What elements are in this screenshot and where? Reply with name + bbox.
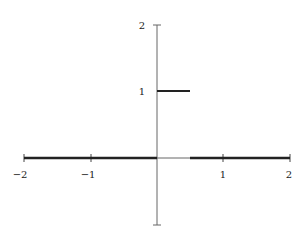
x-tick-label: 1 [220, 169, 226, 180]
x-tick-label: 2 [286, 169, 292, 180]
y-tick-label: 2 [139, 20, 145, 31]
x-tick-label: −2 [13, 169, 28, 180]
chart: −2 −1 1 2 1 2 [0, 0, 304, 240]
y-tick-label: 1 [139, 86, 145, 97]
x-tick-label: −1 [81, 169, 96, 180]
